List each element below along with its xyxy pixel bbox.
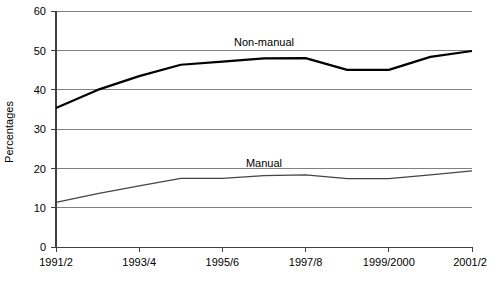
y-axis-title: Percentages	[3, 101, 15, 163]
y-tick-label-10: 10	[34, 202, 46, 214]
chart-container: 60 50 40 30 20 10 0 1991/2 1993/4 1995/6…	[0, 0, 501, 285]
x-tick-label-1997-8: 1997/8	[289, 256, 323, 268]
y-tick-marks	[51, 11, 56, 247]
x-tick-label-1991-2: 1991/2	[39, 256, 73, 268]
y-tick-label-20: 20	[34, 163, 46, 175]
y-tick-labels: 60 50 40 30 20 10 0	[34, 5, 46, 253]
line-chart: 60 50 40 30 20 10 0 1991/2 1993/4 1995/6…	[0, 0, 501, 285]
series-label-non-manual: Non-manual	[234, 36, 294, 48]
y-tick-label-30: 30	[34, 123, 46, 135]
y-tick-label-0: 0	[40, 241, 46, 253]
y-tick-label-50: 50	[34, 45, 46, 57]
x-tick-labels: 1991/2 1993/4 1995/6 1997/8 1999/2000 20…	[39, 256, 487, 268]
y-tick-label-60: 60	[34, 5, 46, 17]
series-line-manual	[56, 171, 472, 202]
x-tick-marks	[56, 247, 472, 252]
series-line-non-manual	[56, 51, 472, 108]
x-tick-label-1999-2000: 1999/2000	[363, 256, 415, 268]
x-tick-label-1993-4: 1993/4	[122, 256, 156, 268]
y-tick-label-40: 40	[34, 84, 46, 96]
x-tick-label-1995-6: 1995/6	[206, 256, 240, 268]
x-tick-label-2001-2: 2001/2	[453, 256, 487, 268]
series-label-manual: Manual	[246, 157, 282, 169]
